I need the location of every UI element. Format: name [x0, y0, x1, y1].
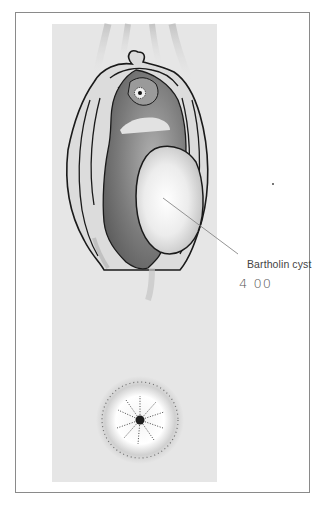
anus-illustration [96, 376, 184, 464]
handwritten-note: 4 00 [239, 276, 272, 291]
stray-mark [272, 183, 274, 185]
vulva-illustration [0, 0, 323, 505]
bartholin-cyst [136, 146, 203, 254]
cyst-label: Bartholin cyst [247, 258, 311, 270]
